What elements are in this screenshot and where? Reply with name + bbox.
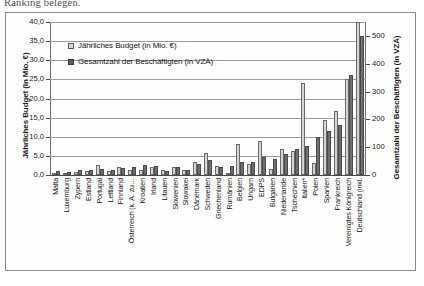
x-axis-label: Frankreich <box>334 178 341 210</box>
x-axis-label: Slowakei <box>183 178 190 206</box>
bar-staff <box>89 170 93 175</box>
bar-staff <box>186 170 190 175</box>
x-axis-label: Zypern <box>74 178 81 199</box>
x-axis-label-slot: Schweden <box>203 176 214 268</box>
x-axis-label-slot: Kroatien <box>138 176 149 268</box>
x-axis-label: Rumänien <box>226 178 233 210</box>
x-axis-label-slot: Niederlande <box>278 176 289 268</box>
y-axis-right-tick-mark <box>366 64 370 65</box>
x-axis-label: Portugal <box>96 178 103 204</box>
x-axis-label: Polen <box>313 178 320 196</box>
bar-staff <box>154 166 158 175</box>
x-axis-label-slot: Bulgarien <box>268 176 279 268</box>
bar-group <box>257 22 268 175</box>
x-axis-label: Niederlande <box>280 178 287 215</box>
bar-group <box>354 22 365 175</box>
x-axis-label: Tschechien <box>291 178 298 212</box>
x-axis-label-slot: Estland <box>83 176 94 268</box>
legend-swatch-icon <box>68 43 74 49</box>
bar-staff <box>56 171 60 175</box>
y-axis-right-title: Gesamtzahl der Beschäftigten (in VZÄ) <box>392 23 401 193</box>
bar-staff <box>111 170 115 175</box>
y-axis-left-tick-label: 5,0 <box>4 152 44 160</box>
bar-staff <box>316 137 320 175</box>
bar-group <box>224 22 235 175</box>
chart-frame: Jährliches Budget (in Mio. €) Gesamtzahl… <box>5 12 416 271</box>
chart-legend: Jährliches Budget (in Mio. €)Gesamtzahl … <box>68 41 213 66</box>
x-axis-label: Lettland <box>107 178 114 202</box>
bar-group <box>213 22 224 175</box>
x-axis-label: Deutschland (inkl. <box>356 178 363 232</box>
bar-staff <box>165 171 169 175</box>
x-axis-label-slot: Polen <box>311 176 322 268</box>
x-axis-label: Luxemburg <box>64 178 71 213</box>
x-axis-label: Irland <box>150 178 157 195</box>
y-axis-right-tick-label: 100 <box>372 143 412 151</box>
y-axis-right-tick-label: 0 <box>372 171 412 179</box>
x-axis-label-slot: Malta <box>51 176 62 268</box>
x-axis-label: Finnland <box>118 178 125 204</box>
x-axis-label-slot: Griechenland <box>213 176 224 268</box>
bar-group <box>246 22 257 175</box>
bar-group <box>51 22 62 175</box>
bar-group <box>289 22 300 175</box>
y-axis-right-tick-mark <box>366 175 370 176</box>
x-axis-label-slot: Slowakei <box>181 176 192 268</box>
legend-item: Jährliches Budget (in Mio. €) <box>68 41 213 50</box>
x-axis-label-slot: Frankreich <box>333 176 344 268</box>
legend-item-label: Jährliches Budget (in Mio. €) <box>78 41 176 50</box>
y-axis-left-tick-label: 10,0 <box>4 133 44 141</box>
x-axis-label: Estland <box>85 178 92 201</box>
y-axis-right-tick-label: 400 <box>372 60 412 68</box>
x-axis-label-slot: Italien* <box>300 176 311 268</box>
x-axis-label: Schweden <box>204 178 211 210</box>
x-axis-label: Österreich (k. A. zu… <box>129 178 136 243</box>
bar-group <box>333 22 344 175</box>
x-axis-label: EDPS <box>259 178 266 197</box>
bar-staff <box>305 146 309 175</box>
legend-swatch-icon <box>68 59 74 65</box>
x-axis-label: Dänemark <box>194 178 201 210</box>
legend-item: Gesamtzahl der Beschäftigten (in VZÄ) <box>68 57 213 66</box>
x-axis-label: Ungarn <box>248 178 255 201</box>
x-axis-label: Kroatien <box>139 178 146 204</box>
x-axis-label: Vereinigtes Königreich <box>345 178 352 246</box>
x-axis-label-slot: Österreich (k. A. zu… <box>127 176 138 268</box>
x-axis-label-slot: Tschechien <box>289 176 300 268</box>
x-axis-label: Bulgarien <box>269 178 276 207</box>
bar-staff <box>230 166 234 175</box>
y-axis-left-tick-label: 25,0 <box>4 75 44 83</box>
bar-staff <box>273 159 277 175</box>
page-top-text-fragment: Ranking belegen. <box>4 0 81 8</box>
bar-staff <box>100 169 104 175</box>
bar-staff <box>284 154 288 175</box>
y-axis-right-tick-mark <box>366 92 370 93</box>
bar-staff <box>251 162 255 175</box>
y-axis-left-tick-label: 35,0 <box>4 37 44 45</box>
x-axis-label-slot: Dänemark <box>192 176 203 268</box>
x-axis-label-slot: Slowenien <box>170 176 181 268</box>
y-axis-left-tick-label: 15,0 <box>4 114 44 122</box>
bar-group <box>343 22 354 175</box>
bar-staff <box>78 170 82 175</box>
x-axis-label-slot: Zypern <box>73 176 84 268</box>
x-axis-label: Italien* <box>302 178 309 199</box>
x-axis-label-slot: Spanien <box>322 176 333 268</box>
x-axis-label-slot: Finnland <box>116 176 127 268</box>
x-axis-label: Griechenland <box>215 178 222 219</box>
bar-staff <box>67 172 71 175</box>
x-axis-label-slot: Belgien <box>235 176 246 268</box>
bar-staff <box>176 167 180 175</box>
x-axis-label-slot: Rumänien <box>224 176 235 268</box>
y-axis-left-tick-label: 30,0 <box>4 56 44 64</box>
bar-staff <box>360 36 364 175</box>
bar-staff <box>197 164 201 175</box>
bar-staff <box>132 167 136 175</box>
x-axis-label-slot: Ungarn <box>246 176 257 268</box>
x-axis-labels: MaltaLuxemburgZypernEstlandPortugalLettl… <box>50 176 366 268</box>
bar-group <box>268 22 279 175</box>
bar-staff <box>143 165 147 175</box>
bar-group <box>322 22 333 175</box>
x-axis-label: Malta <box>53 178 60 195</box>
bar-group <box>300 22 311 175</box>
